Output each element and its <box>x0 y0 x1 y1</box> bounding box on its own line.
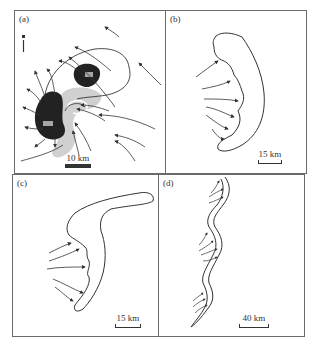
panel-a-scale: 10 km <box>65 153 91 168</box>
panel-d-drawing <box>159 175 306 338</box>
panel-d: (d) 40 km <box>158 174 305 337</box>
panel-c: (c) 15 km <box>12 174 159 337</box>
figure: (a) <box>0 0 317 345</box>
panel-b-scale-label: 15 km <box>259 149 282 159</box>
panel-d-scale-label: 40 km <box>243 313 266 323</box>
panel-a: (a) <box>14 10 166 174</box>
panel-c-scale-label: 15 km <box>117 313 140 323</box>
panel-c-scale: 15 km <box>115 313 141 328</box>
panel-a-drawing <box>15 11 167 175</box>
north-arrow-icon <box>22 35 25 52</box>
panel-a-scale-label: 10 km <box>67 153 90 163</box>
panel-b: (b) 15 km <box>165 10 307 174</box>
panel-b-scale: 15 km <box>258 149 282 164</box>
panel-b-drawing <box>166 11 308 175</box>
panel-d-scale: 40 km <box>239 313 269 328</box>
